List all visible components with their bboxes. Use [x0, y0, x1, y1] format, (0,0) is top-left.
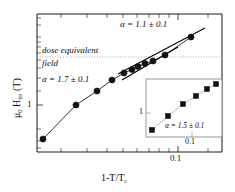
- y-axis-title-mu: μ: [11, 113, 22, 118]
- x-axis-title: 1-T/Tc: [101, 173, 127, 184]
- y-tick-label-1: 1: [27, 100, 32, 109]
- y-axis-title-h: H: [11, 100, 22, 110]
- figure-container: μ0 Hirr (T) 1 0.1 1-T/Tc α = 1.1 ± 0.1 d…: [0, 0, 235, 192]
- y-axis-title-units: (T): [11, 78, 22, 93]
- dose-equivalent-label-line1: dose equivalent: [42, 46, 98, 55]
- y-axis-title-mu-subscript: 0: [16, 109, 23, 112]
- dose-equivalent-label-line2: field: [42, 59, 58, 68]
- annotation-alpha-inset: α = 1.5 ± 0.1: [165, 122, 204, 130]
- inset-x-tick-label-0p1: 0.1: [185, 138, 195, 146]
- y-axis-title-h-subscript: irr: [16, 94, 23, 100]
- x-axis-title-main: 1-T/T: [101, 172, 124, 183]
- annotation-alpha-high: α = 1.1 ± 0.1: [120, 20, 167, 29]
- fit-line-alpha-1p7: [122, 47, 178, 80]
- annotation-alpha-low: α = 1.7 ± 0.1: [42, 75, 89, 84]
- y-axis-title: μ0 Hirr (T): [12, 78, 23, 118]
- x-tick-label-0p1: 0.1: [170, 154, 181, 163]
- inset-y-tick-label-1: 1: [139, 108, 143, 116]
- x-axis-title-subscript: c: [124, 177, 127, 184]
- chart-canvas: [0, 0, 235, 192]
